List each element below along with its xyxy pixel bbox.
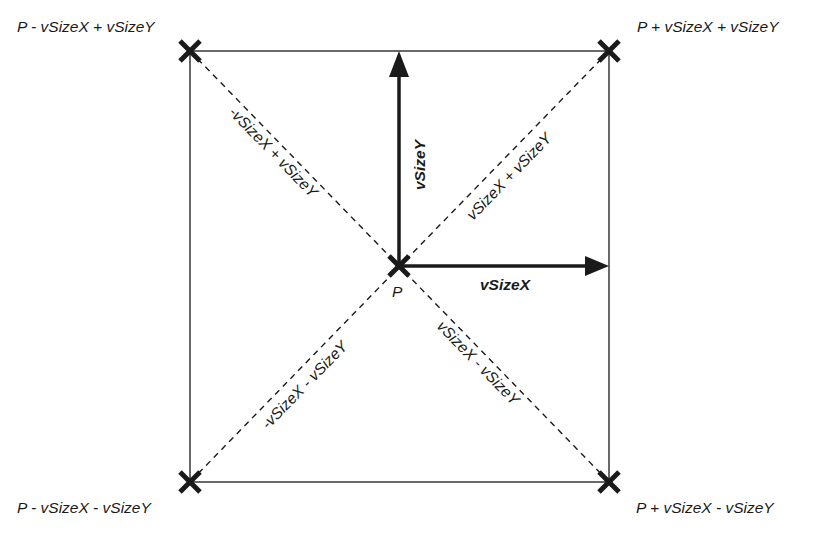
center-point-label: P	[392, 283, 403, 300]
billboard-corner-diagram: P - vSizeX + vSizeY P + vSizeX + vSizeY …	[0, 0, 824, 533]
diagonal-label-upper-right: vSizeX + vSizeY	[463, 128, 556, 223]
diagonal-label-lower-right: vSizeX - vSizeY	[434, 317, 524, 409]
corner-label-bottom-left: P - vSizeX - vSizeY	[17, 499, 152, 516]
diagonal-label-upper-left: -vSizeX + vSizeY	[226, 103, 323, 202]
diagonal-label-lower-left: -vSizeX - vSizeY	[258, 336, 352, 432]
vector-x-arrow	[399, 256, 609, 276]
vector-y-arrow	[389, 51, 409, 266]
corner-label-top-right: P + vSizeX + vSizeY	[637, 18, 780, 35]
corner-label-bottom-right: P + vSizeX - vSizeY	[636, 499, 775, 516]
corner-label-top-left: P - vSizeX + vSizeY	[17, 18, 156, 35]
vector-x-label: vSizeX	[480, 276, 532, 293]
vector-y-label: vSizeY	[411, 138, 428, 190]
